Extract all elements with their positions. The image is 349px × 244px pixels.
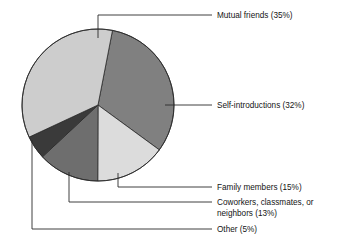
label-self-introductions: Self-introductions (32%) [217,101,305,110]
label-other: Other (5%) [217,225,257,234]
pie-chart-figure: Mutual friends (35%) Self-introductions … [0,0,349,244]
pie-chart-svg: Mutual friends (35%) Self-introductions … [0,0,349,244]
label-coworkers-line2: neighbors (13%) [217,209,277,218]
label-family-members: Family members (15%) [217,183,302,192]
label-mutual-friends: Mutual friends (35%) [217,11,293,20]
pie-slices [22,29,174,181]
label-coworkers-line1: Coworkers, classmates, or [217,198,314,207]
